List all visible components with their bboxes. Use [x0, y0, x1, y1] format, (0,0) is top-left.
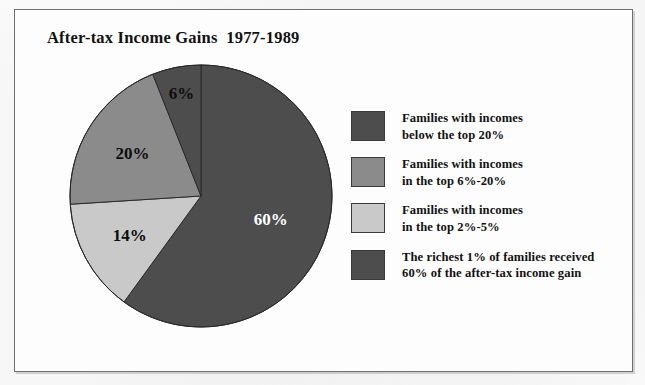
legend-label-line-1: The richest 1% of families received	[402, 249, 594, 266]
figure-frame-border: After-tax Income Gains 1977-1989 60%14%2…	[14, 9, 633, 372]
legend-swatch-below-top-20	[351, 111, 385, 141]
legend-item-richest-1-percent[interactable]: The richest 1% of families received 60% …	[351, 249, 641, 282]
legend-swatch-top-6-20	[351, 157, 385, 187]
legend-label-richest-1-percent: The richest 1% of families received 60% …	[402, 249, 594, 282]
pie-chart: 60%14%20%6%	[68, 63, 334, 329]
legend-label-line-2: below the top 20%	[402, 127, 523, 144]
page-bleed-through-artifact	[401, 72, 631, 94]
chart-legend: Families with incomes below the top 20% …	[351, 110, 641, 295]
legend-label-line-2: in the top 2%-5%	[402, 219, 523, 236]
legend-item-below-top-20[interactable]: Families with incomes below the top 20%	[351, 110, 641, 143]
pie-slice-label-6pct: 6%	[169, 84, 195, 103]
legend-label-below-top-20: Families with incomes below the top 20%	[402, 110, 523, 143]
legend-swatch-richest-1-percent	[351, 250, 385, 280]
legend-swatch-top-2-5	[351, 203, 385, 233]
legend-item-top-2-5[interactable]: Families with incomes in the top 2%-5%	[351, 202, 641, 235]
pie-slice-group	[70, 65, 332, 327]
legend-label-top-6-20: Families with incomes in the top 6%-20%	[402, 156, 523, 189]
legend-label-line-1: Families with incomes	[402, 110, 523, 127]
legend-label-line-1: Families with incomes	[402, 156, 523, 173]
chart-title: After-tax Income Gains 1977-1989	[47, 28, 300, 48]
pie-slice-label-20pct: 20%	[115, 144, 149, 163]
pie-slice-label-14pct: 14%	[113, 226, 147, 245]
legend-item-top-6-20[interactable]: Families with incomes in the top 6%-20%	[351, 156, 641, 189]
pie-chart-svg: 60%14%20%6%	[68, 63, 334, 329]
legend-label-line-1: Families with incomes	[402, 202, 523, 219]
scanned-page: After-tax Income Gains 1977-1989 60%14%2…	[0, 0, 645, 385]
legend-label-line-2: in the top 6%-20%	[402, 173, 523, 190]
legend-label-top-2-5: Families with incomes in the top 2%-5%	[402, 202, 523, 235]
pie-slice-label-60pct: 60%	[254, 210, 288, 229]
legend-label-line-2: 60% of the after-tax income gain	[402, 265, 594, 282]
